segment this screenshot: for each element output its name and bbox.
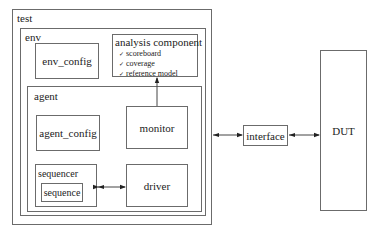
arrowhead-left-icon — [98, 185, 104, 189]
connectors — [0, 0, 376, 233]
arrowhead-left-icon — [213, 133, 219, 137]
arrowhead-left-icon — [289, 133, 295, 137]
